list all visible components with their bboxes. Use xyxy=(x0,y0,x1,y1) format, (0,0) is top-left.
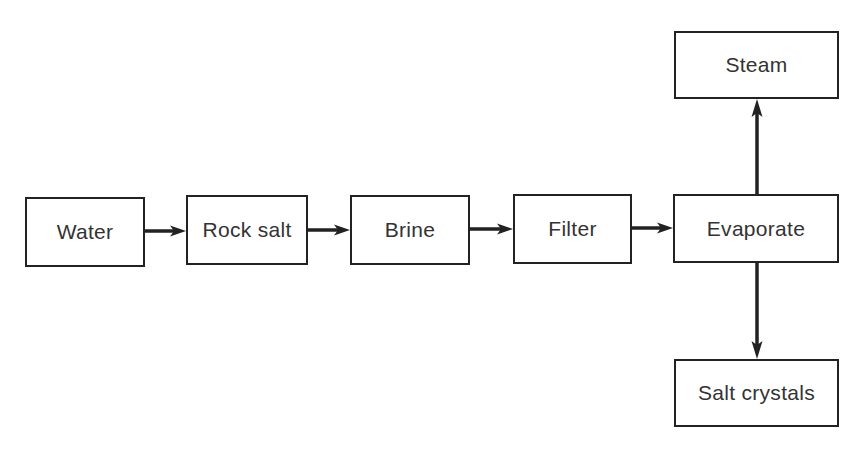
node-filter: Filter xyxy=(513,194,632,264)
node-rock-salt-label: Rock salt xyxy=(202,218,291,242)
salt-production-flowchart: Water Rock salt Brine Filter Evaporate S… xyxy=(0,0,868,458)
node-salt-crystals-label: Salt crystals xyxy=(698,381,815,405)
node-rock-salt: Rock salt xyxy=(186,195,308,265)
node-filter-label: Filter xyxy=(548,217,596,241)
node-steam: Steam xyxy=(674,31,839,99)
arrow-evaporate-to-salt-crystals xyxy=(752,263,763,359)
node-evaporate: Evaporate xyxy=(673,194,839,263)
node-brine-label: Brine xyxy=(385,218,436,242)
node-water-label: Water xyxy=(57,220,114,244)
node-brine: Brine xyxy=(350,195,470,265)
node-water: Water xyxy=(25,197,145,267)
arrow-water-to-rock-salt xyxy=(145,226,186,237)
arrow-evaporate-to-steam xyxy=(752,99,763,194)
arrow-rock-salt-to-brine xyxy=(308,225,350,236)
node-salt-crystals: Salt crystals xyxy=(674,359,839,427)
arrow-filter-to-evaporate xyxy=(632,223,673,234)
arrow-brine-to-filter xyxy=(470,224,513,235)
node-evaporate-label: Evaporate xyxy=(707,217,805,241)
node-steam-label: Steam xyxy=(725,53,787,77)
